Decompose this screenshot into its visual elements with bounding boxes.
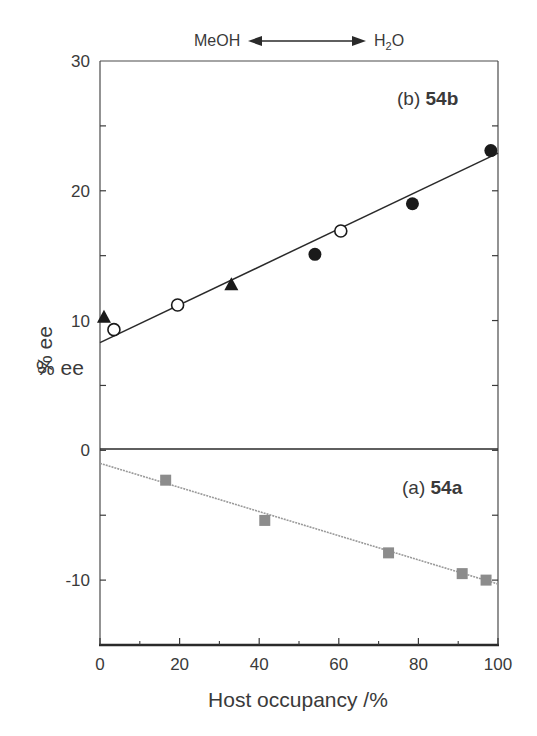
panel-a-label: (a) 54a	[402, 477, 463, 498]
y-tick-label: 10	[71, 312, 90, 331]
x-tick-label: 60	[329, 655, 348, 674]
y-tick-label: 30	[71, 52, 90, 71]
data-markers	[97, 144, 497, 586]
data-point-square-filled	[259, 515, 270, 526]
axis-tick-labels: 020406080100-100102030	[65, 52, 512, 674]
meoh-label: MeOH	[194, 32, 240, 49]
y-axis-title-artifact: % ee	[36, 356, 84, 379]
data-point-circle-filled	[406, 197, 419, 210]
h2o-label: H2O	[374, 32, 404, 52]
data-point-square-filled	[160, 475, 171, 486]
panel-b-label: (b) 54b	[397, 88, 458, 109]
fit-line-54b	[100, 153, 498, 342]
data-point-circle-open	[172, 299, 184, 311]
double-arrow-icon	[248, 36, 366, 46]
data-point-triangle-filled	[224, 277, 238, 290]
x-tick-label: 80	[409, 655, 428, 674]
data-point-circle-filled	[308, 248, 321, 261]
solvent-annotation: MeOH H2O	[194, 32, 404, 52]
data-point-circle-open	[108, 324, 120, 336]
data-point-square-filled	[383, 547, 394, 558]
chart: MeOH H2O 020406080100-100102030 (b) 54b …	[0, 0, 537, 736]
x-tick-label: 40	[250, 655, 269, 674]
data-point-square-filled	[481, 575, 492, 586]
y-tick-label: 0	[81, 441, 90, 460]
plot-frame	[99, 61, 499, 646]
data-point-circle-open	[335, 225, 347, 237]
fit-lines	[100, 153, 498, 584]
x-tick-label: 100	[484, 655, 512, 674]
x-tick-label: 0	[95, 655, 104, 674]
data-point-circle-filled	[484, 144, 497, 157]
axis-ticks	[100, 126, 498, 645]
x-axis-title: Host occupancy /%	[208, 688, 388, 711]
y-tick-label: -10	[65, 571, 90, 590]
x-tick-label: 20	[170, 655, 189, 674]
y-tick-label: 20	[71, 182, 90, 201]
data-point-triangle-filled	[97, 310, 111, 323]
data-point-square-filled	[457, 568, 468, 579]
